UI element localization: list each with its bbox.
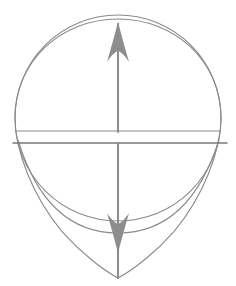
geometric-construction-figure [0,0,236,286]
diagram-root [0,0,236,286]
